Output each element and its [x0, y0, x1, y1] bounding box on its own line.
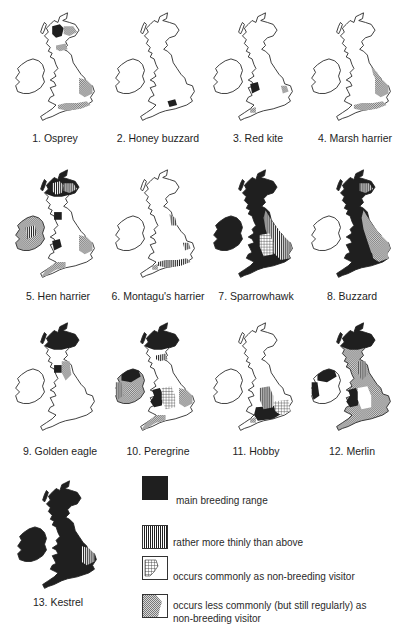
map-red-kite [206, 8, 302, 130]
caption-marsh-harrier: 4. Marsh harrier [305, 132, 405, 144]
map-marsh-harrier [304, 8, 400, 130]
legend-swatch-thin [142, 525, 168, 549]
caption-osprey: 1. Osprey [5, 132, 105, 144]
map-buzzard [304, 165, 400, 287]
map-merlin [304, 318, 400, 440]
caption-golden-eagle: 9. Golden eagle [10, 445, 110, 457]
legend-label-less-common-visitor: occurs less commonly (but still regularl… [173, 599, 366, 625]
map-osprey [8, 8, 104, 130]
legend-label-less-line1: occurs less commonly (but still regularl… [173, 599, 366, 612]
map-honey-buzzard [108, 8, 204, 130]
map-kestrel [10, 476, 106, 598]
map-golden-eagle [8, 318, 104, 440]
map-hen-harrier [8, 165, 104, 287]
legend-label-less-line2: non-breeding visitor [173, 612, 366, 625]
caption-hobby: 11. Hobby [206, 445, 306, 457]
caption-kestrel: 13. Kestrel [8, 596, 108, 608]
map-hobby [206, 318, 302, 440]
legend-swatch-less-common-visitor [142, 594, 168, 618]
map-montagus-harrier [108, 165, 204, 287]
legend-label-main: main breeding range [176, 494, 268, 507]
legend-label-common-visitor: occurs commonly as non-breeding visitor [173, 570, 355, 583]
caption-honey-buzzard: 2. Honey buzzard [108, 132, 208, 144]
caption-montagus-harrier: 6. Montagu's harrier [108, 290, 208, 302]
caption-buzzard: 8. Buzzard [302, 290, 402, 302]
caption-merlin: 12. Merlin [302, 445, 402, 457]
legend-label-thin: rather more thinly than above [173, 536, 303, 549]
legend-swatch-common-visitor [142, 556, 168, 580]
caption-hen-harrier: 5. Hen harrier [8, 290, 108, 302]
map-sparrowhawk [206, 165, 302, 287]
map-peregrine [108, 318, 204, 440]
legend-swatch-main [142, 476, 168, 500]
caption-sparrowhawk: 7. Sparrowhawk [206, 290, 306, 302]
caption-peregrine: 10. Peregrine [108, 445, 208, 457]
caption-red-kite: 3. Red kite [208, 132, 308, 144]
